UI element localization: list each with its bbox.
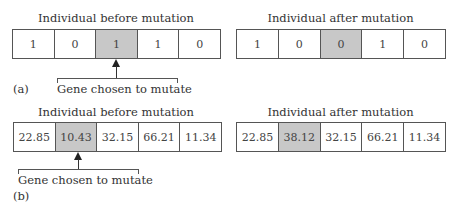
gene-cell: 66.21 [138, 123, 180, 151]
gene-chosen-label: Gene chosen to mutate [18, 173, 139, 187]
gene-cell-selected: 10.43 [55, 123, 97, 151]
gene-cell: 1 [237, 30, 278, 58]
arrow-shaft [116, 66, 117, 78]
panel-b-after-title: Individual after mutation [236, 105, 445, 119]
gene-cell: 0 [178, 30, 220, 58]
gene-cell: 0 [54, 30, 96, 58]
panel-b-label: (b) [13, 189, 29, 203]
panel-b-before-array: 22.85 10.43 32.15 66.21 11.34 [13, 122, 222, 152]
panel-a-after-array: 1 0 0 1 0 [236, 29, 446, 59]
gene-cell: 22.85 [14, 123, 55, 151]
arrow-shaft [78, 159, 79, 169]
gene-cell-mutated: 0 [320, 30, 362, 58]
panel-b-after-array: 22.85 38.12 32.15 66.21 11.34 [236, 122, 446, 152]
panel-a-before-array: 1 0 1 1 0 [12, 29, 221, 59]
gene-cell: 1 [137, 30, 179, 58]
gene-cell: 32.15 [320, 123, 362, 151]
panel-a-after-title: Individual after mutation [236, 11, 445, 25]
gene-cell: 0 [403, 30, 445, 58]
gene-cell-selected: 1 [95, 30, 137, 58]
gene-cell: 11.34 [179, 123, 221, 151]
gene-cell: 32.15 [96, 123, 138, 151]
gene-cell-mutated: 38.12 [278, 123, 320, 151]
gene-cell: 22.85 [237, 123, 278, 151]
gene-cell: 1 [361, 30, 403, 58]
gene-cell: 66.21 [361, 123, 403, 151]
gene-chosen-label: Gene chosen to mutate [57, 82, 178, 96]
panel-b-before-title: Individual before mutation [12, 105, 220, 119]
gene-cell: 0 [278, 30, 320, 58]
gene-cell: 1 [13, 30, 54, 58]
panel-a-label: (a) [13, 82, 29, 96]
gene-cell: 11.34 [403, 123, 445, 151]
panel-a-before-title: Individual before mutation [12, 11, 220, 25]
